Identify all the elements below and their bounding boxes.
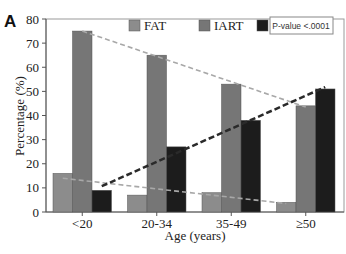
trend-line-iart	[82, 31, 306, 107]
x-tick-label: ≥50	[296, 216, 316, 231]
y-tick-label: 80	[26, 12, 39, 27]
bar-chart: A Percentage (%) Age (years) 01020304050…	[0, 0, 346, 254]
y-tick-label: 10	[26, 180, 39, 195]
bar-af	[316, 89, 336, 212]
y-tick-label: 60	[26, 60, 39, 75]
bar-iart	[222, 84, 242, 212]
bar-iart	[73, 31, 93, 212]
x-tick-label: <20	[72, 216, 92, 231]
bar-fat	[53, 173, 73, 212]
bar-iart	[147, 55, 167, 212]
bar-af	[241, 120, 261, 212]
y-tick-label: 0	[33, 205, 40, 220]
y-tick-label: 40	[26, 108, 39, 123]
legend-swatch-fat	[129, 20, 140, 31]
legend-label-fat: FAT	[144, 18, 166, 33]
legend-swatch-af	[257, 20, 268, 31]
legend-label-iart: IART	[214, 18, 244, 33]
bar-iart	[296, 106, 316, 212]
bar-af	[92, 190, 112, 212]
bar-fat	[277, 202, 297, 212]
y-tick-label: 20	[26, 156, 39, 171]
p-value-annotation: P-value <.0001	[272, 21, 330, 31]
y-tick-label: 30	[26, 132, 39, 147]
plot-area: 01020304050607080<2020-3435-49≥50FATIART…	[0, 0, 346, 254]
y-tick-label: 50	[26, 84, 39, 99]
x-tick-label: 20-34	[142, 216, 173, 231]
legend-swatch-iart	[199, 20, 210, 31]
bar-fat	[128, 195, 148, 212]
x-tick-label: 35-49	[216, 216, 246, 231]
trend-line-af	[102, 87, 326, 186]
y-tick-label: 70	[26, 36, 39, 51]
